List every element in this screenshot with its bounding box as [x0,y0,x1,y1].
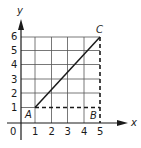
x-tick: 4 [81,126,87,137]
y-tick: 2 [11,88,17,99]
x-axis-label: x [130,117,137,128]
point-a-label: A [24,109,32,120]
x-tick-labels: 1 2 3 4 5 [32,126,103,137]
y-tick-labels: 1 2 3 4 5 6 [11,31,17,113]
x-tick: 2 [49,126,55,137]
y-tick: 3 [11,74,17,85]
coordinate-diagram: y x 0 1 2 3 4 5 6 1 2 3 4 5 A B C [0,0,141,148]
y-tick: 6 [11,31,17,42]
y-tick: 4 [11,59,17,70]
origin-label: 0 [10,126,16,137]
point-b-label: B [90,110,97,121]
y-tick: 1 [11,102,17,113]
x-tick: 3 [65,126,71,137]
y-tick: 5 [11,45,17,56]
y-axis-arrow-icon [18,19,24,30]
x-tick: 5 [97,126,103,137]
point-c-label: C [96,24,103,35]
x-tick: 1 [32,126,38,137]
y-axis-label: y [16,5,24,16]
x-axis-arrow-icon [117,120,128,126]
